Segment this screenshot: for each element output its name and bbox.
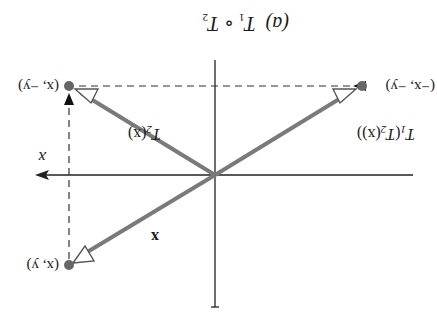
caption-part: (a) [266,13,289,35]
compose-operator: ∘ [224,13,234,35]
y-axis [211,60,219,307]
open-paren: ( [395,126,400,143]
t1-sub: 1 [401,124,407,136]
diagram-svg [0,0,437,315]
point-label-x-negy: (x, −y) [18,79,59,94]
vector-label-t1t2x: T1(T2(x)) [357,124,415,142]
point-label-x-y: (x, y) [27,258,60,273]
vector-label-t2x: T2(x) [128,124,161,142]
caption-T1: T [245,13,256,35]
point-label-negx-negy: (−x, −y) [386,79,435,94]
caption: (a) T1 ∘ T2 [203,12,289,34]
point-dot-x-y [64,260,74,270]
t2-arg: (x) [128,126,147,143]
x-axis-label: x [38,149,46,166]
vector-x [79,175,215,257]
caption-T2-sub: 2 [203,12,209,24]
t2-sub: 2 [147,124,153,136]
vector-t1-t2-x [215,93,349,175]
caption-T2: T [208,13,219,35]
t2-T: T [152,126,161,143]
vector-label-x: x [151,229,159,245]
point-dot-negx-negy [357,81,367,91]
diagram-canvas: x (x, y) (x, −y) (−x, −y) x T2(x) T1(T2(… [0,0,437,315]
arrowhead-down-icon [64,93,74,105]
t1t2-arg: (x)) [357,126,381,143]
t1-T: T [406,126,415,143]
point-dot-x-negy [64,81,74,91]
t2-sub-inner: 2 [381,124,387,136]
t2-T-inner: T [386,126,395,143]
caption-T1-sub: 1 [239,12,245,24]
t2-arg-text: (x) [128,126,147,143]
